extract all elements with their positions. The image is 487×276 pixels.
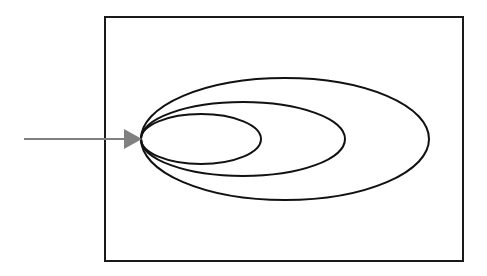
diagram-canvas <box>0 0 487 276</box>
inner-ellipse <box>141 114 261 164</box>
outer-ellipse <box>141 78 429 200</box>
middle-ellipse <box>141 102 345 176</box>
arrow-icon <box>24 129 142 149</box>
frame-rectangle <box>105 17 463 261</box>
